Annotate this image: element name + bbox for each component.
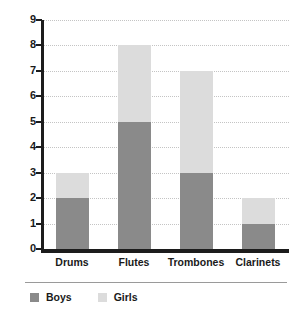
bar-stack xyxy=(180,71,213,249)
x-axis-label-drums: Drums xyxy=(41,256,103,268)
y-tick-label: 3 xyxy=(14,167,36,178)
legend-swatch-girls xyxy=(98,293,107,302)
y-tick-label: 9 xyxy=(14,14,36,25)
bar-segment-girls xyxy=(180,71,213,173)
y-tick-label: 0 xyxy=(14,243,36,254)
bar-segment-girls xyxy=(118,45,151,121)
bar-segment-boys xyxy=(56,198,89,249)
bar-segment-boys xyxy=(242,224,275,249)
bar-stack xyxy=(118,45,151,249)
legend-item-boys: Boys xyxy=(30,292,72,303)
legend-item-girls: Girls xyxy=(98,292,138,303)
x-axis-label-flutes: Flutes xyxy=(103,256,165,268)
legend-label: Girls xyxy=(114,292,138,303)
y-tick-label: 5 xyxy=(14,116,36,127)
y-tick-label: 8 xyxy=(14,39,36,50)
x-axis-label-clarinets: Clarinets xyxy=(227,256,289,268)
y-tick-label: 2 xyxy=(14,192,36,203)
bar-segment-girls xyxy=(56,173,89,198)
x-axis-label-trombones: Trombones xyxy=(165,256,227,268)
bar-segment-girls xyxy=(242,198,275,223)
legend-divider xyxy=(25,282,287,283)
stacked-bar-chart: 9876543210 DrumsFlutesTrombonesClarinets… xyxy=(0,0,307,316)
x-axis-line xyxy=(41,249,289,253)
plot-area xyxy=(41,20,289,249)
y-tick-label: 6 xyxy=(14,90,36,101)
y-tick-label: 4 xyxy=(14,141,36,152)
bar-stack xyxy=(242,198,275,249)
bar-segment-boys xyxy=(118,122,151,249)
y-tick-label: 7 xyxy=(14,65,36,76)
chart-legend: BoysGirls xyxy=(30,292,164,303)
legend-label: Boys xyxy=(46,292,72,303)
y-tick-label: 1 xyxy=(14,218,36,229)
bar-stack xyxy=(56,173,89,249)
bar-segment-boys xyxy=(180,173,213,249)
legend-swatch-boys xyxy=(30,293,39,302)
